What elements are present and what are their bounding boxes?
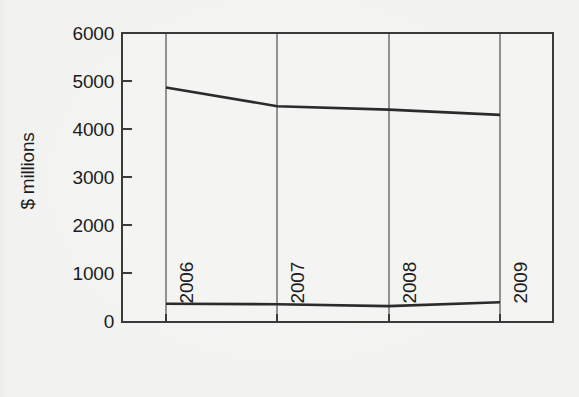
plot-area (0, 0, 579, 397)
x-tick-label-2008: 2008 (399, 262, 421, 332)
x-tick-label-2006: 2006 (176, 262, 198, 332)
x-tick-label-2009: 2009 (510, 262, 532, 332)
chart-figure: 6000 5000 4000 3000 2000 1000 0 $ millio… (0, 0, 579, 397)
x-tick-label-2007: 2007 (287, 262, 309, 332)
